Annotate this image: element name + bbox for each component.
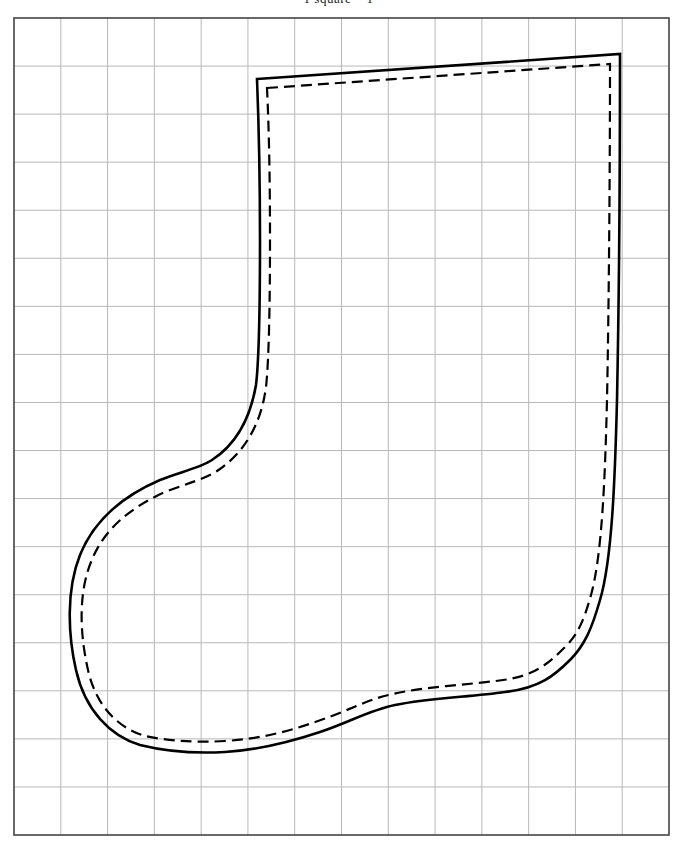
stocking-pattern-diagram (0, 0, 683, 855)
stocking-cut-line (70, 54, 620, 753)
grid (14, 18, 669, 835)
